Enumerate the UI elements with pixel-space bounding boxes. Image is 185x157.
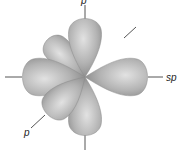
axis-lower-left: [31, 115, 45, 128]
label-right: sp: [166, 72, 177, 83]
axis-upper-right: [124, 27, 136, 38]
label-lower-left: p: [23, 127, 30, 138]
lobe-right: [85, 58, 148, 96]
label-top: p: [80, 0, 87, 6]
orbital-diagram: p sp p: [0, 0, 185, 157]
